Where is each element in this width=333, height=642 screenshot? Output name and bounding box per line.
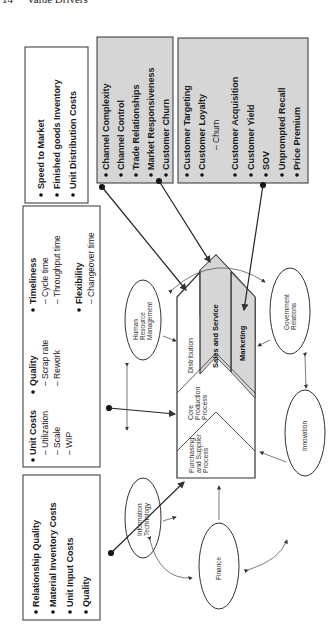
bullet-icon <box>119 173 123 177</box>
bullet-icon <box>51 610 55 614</box>
driver-relationship-quality: Relationship Quality <box>31 520 41 607</box>
svg-text:Finance: Finance <box>215 556 222 580</box>
bullet-icon <box>200 173 204 177</box>
driver-throughput-time: – Throughput time <box>52 235 62 304</box>
bullet-icon <box>264 173 268 177</box>
bullet-icon <box>185 173 189 177</box>
bullet-icon <box>134 173 138 177</box>
bullet-icon <box>233 173 237 177</box>
value-chain-arrow: Distribution Sales and Service Marketing… <box>177 255 255 478</box>
bullet-icon <box>34 610 38 614</box>
support-it: Information Technology <box>125 478 161 558</box>
bullet-icon <box>104 173 108 177</box>
driver-scrap-rate: – Scrap rate <box>40 339 50 386</box>
support-government-relations: Government Relations <box>270 268 310 354</box>
bullet-icon <box>295 173 299 177</box>
logistics-drivers-box: Speed to Market Finished goods Inventory… <box>25 47 88 203</box>
channel-drivers-box: Channel Complexity Channel Control Trade… <box>97 37 173 183</box>
driver-unit-costs: Unit Costs <box>28 410 38 455</box>
driver-customer-targeting: Customer Targeting <box>182 85 192 170</box>
bullet-icon <box>68 610 72 614</box>
driver-speed-to-market: Speed to Market <box>36 119 46 189</box>
driver-finished-goods-inventory: Finished goods Inventory <box>52 79 62 189</box>
driver-unit-input-costs: Unit Input Costs <box>65 538 75 608</box>
page-header: 14Value Drivers <box>2 0 88 5</box>
driver-utilization: – Utilization <box>40 411 50 455</box>
driver-customer-loyalty: Customer Loyalty <box>197 94 207 170</box>
bullet-icon <box>39 193 43 197</box>
driver-market-responsiveness: Market Responsiveness <box>146 67 156 170</box>
driver-channel-complexity: Channel Complexity <box>101 83 111 170</box>
bullet-icon <box>31 308 35 312</box>
support-finance: Finance <box>199 523 239 609</box>
driver-cycle-time: – Cycle time <box>40 257 50 304</box>
value-drivers-diagram: 14Value Drivers Speed to Market Finished… <box>0 0 333 642</box>
bullet-icon <box>249 173 253 177</box>
driver-channel-control: Channel Control <box>116 100 126 170</box>
operations-drivers-box: Unit Costs – Utilization – Scale – WIP Q… <box>23 206 100 467</box>
support-hr: Human Resource Management <box>125 280 161 360</box>
stage-marketing: Marketing <box>238 325 247 361</box>
supplier-drivers-box: Relationship Quality Material Inventory … <box>23 475 100 620</box>
svg-text:Innovation: Innovation <box>301 421 308 451</box>
driver-timeliness: Timeliness <box>28 258 38 304</box>
driver-price-premium: Price Premium <box>292 107 302 170</box>
driver-unit-distribution-costs: Unit Distribution Costs <box>68 91 78 189</box>
customer-drivers-box: Customer Targeting Customer Loyalty – Ch… <box>178 38 308 183</box>
driver-changeover-time: – Changeover time <box>86 232 96 304</box>
driver-material-inventory-costs: Material Inventory Costs <box>48 502 58 607</box>
driver-customer-acquisition: Customer Acquisition <box>230 77 240 170</box>
bullet-icon <box>71 193 75 197</box>
driver-trade-relationships: Trade Relationships <box>131 84 141 170</box>
bullet-icon <box>31 458 35 462</box>
driver-wip: – WIP <box>64 432 74 455</box>
bullet-icon <box>280 173 284 177</box>
driver-churn-sub: – Churn <box>211 119 221 150</box>
bullet-icon <box>84 610 88 614</box>
driver-quality: Quality <box>28 355 38 386</box>
driver-customer-yield: Customer Yield <box>246 104 256 170</box>
driver-quality-supplier: Quality <box>81 576 91 607</box>
driver-scale: – Scale <box>52 426 62 455</box>
driver-unprompted-recall: Unprompted Recall <box>277 87 287 170</box>
bullet-icon <box>31 390 35 394</box>
driver-customer-churn: Customer Churn <box>161 99 171 170</box>
driver-rework: – Rework <box>52 349 62 386</box>
bullet-icon <box>55 193 59 197</box>
svg-text:Information Technology: Information Technology <box>136 502 151 536</box>
stage-distribution: Distribution <box>187 338 194 373</box>
support-innovation: Innovation <box>285 390 325 476</box>
bullet-icon <box>164 173 168 177</box>
bullet-icon <box>149 173 153 177</box>
driver-flexibility: Flexibility <box>74 262 84 304</box>
bullet-icon <box>77 308 81 312</box>
driver-sov: SOV <box>261 151 271 170</box>
stage-sales-and-service: Sales and Service <box>211 304 220 368</box>
